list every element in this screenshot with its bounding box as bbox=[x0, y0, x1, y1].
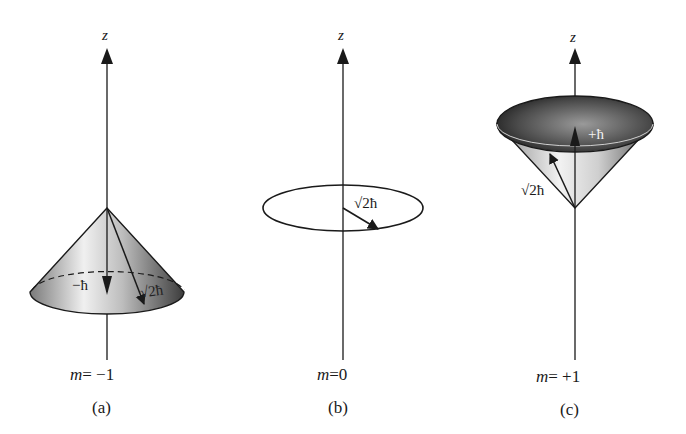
caption-c: (c) bbox=[560, 400, 579, 420]
panel-a bbox=[30, 48, 184, 360]
m-label-a: m= −1 bbox=[70, 365, 114, 385]
m-label-c: m= +1 bbox=[536, 367, 580, 387]
axis-label-a: z bbox=[102, 27, 108, 44]
panel-c bbox=[497, 48, 653, 360]
panel-b bbox=[263, 48, 423, 360]
m-label-b: m=0 bbox=[317, 365, 347, 385]
caption-a: (a) bbox=[92, 398, 111, 418]
l-label-a: √2ħ bbox=[139, 281, 164, 301]
lz-label-a: −ħ bbox=[72, 277, 88, 294]
z-axis-arrowhead-icon bbox=[337, 48, 349, 64]
z-axis-arrowhead-icon bbox=[569, 48, 581, 64]
l-label-c: √2ħ bbox=[521, 182, 544, 199]
l-label-b: √2ħ bbox=[354, 195, 377, 212]
axis-label-c: z bbox=[570, 29, 576, 46]
z-axis-arrowhead-icon bbox=[101, 48, 113, 64]
caption-b: (b) bbox=[328, 398, 348, 418]
lz-label-c: +ħ bbox=[588, 126, 604, 143]
axis-label-b: z bbox=[338, 27, 344, 44]
